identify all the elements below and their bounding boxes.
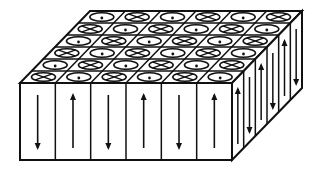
dot-icon: [242, 53, 245, 56]
dot-icon: [77, 77, 80, 80]
dot-icon: [54, 65, 57, 68]
dot-icon: [219, 77, 222, 80]
dot-icon: [148, 77, 151, 80]
dot-icon: [265, 29, 268, 32]
domain-diagram: [0, 0, 318, 172]
dot-icon: [171, 17, 174, 20]
dot-icon: [148, 41, 151, 44]
dot-icon: [195, 29, 198, 32]
dot-icon: [195, 65, 198, 68]
dot-icon: [171, 53, 174, 56]
dot-icon: [100, 17, 103, 20]
dot-icon: [242, 17, 245, 20]
dot-icon: [124, 29, 127, 32]
dot-icon: [77, 41, 80, 44]
dot-icon: [218, 41, 221, 44]
dot-icon: [101, 53, 104, 56]
dot-icon: [124, 65, 127, 68]
domain-block: [0, 0, 318, 172]
